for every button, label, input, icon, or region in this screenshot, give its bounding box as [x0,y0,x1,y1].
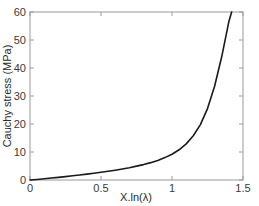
y-tick-label: 0 [20,174,26,186]
cauchy-stress-plot: 00.511.5 0102030405060 X.ln(λ) Cauchy st… [0,0,259,206]
x-tick-label: 1.5 [235,182,250,194]
y-axis-title: Cauchy stress (MPa) [1,45,13,148]
y-tick-label: 60 [14,6,26,18]
y-tick-label: 30 [14,90,26,102]
y-tick-label: 40 [14,62,26,74]
y-tick-label: 10 [14,146,26,158]
y-tick-label: 50 [14,34,26,46]
chart-figure: 00.511.5 0102030405060 X.ln(λ) Cauchy st… [0,0,259,206]
x-tick-label: 1 [169,182,175,194]
x-tick-label: 0.5 [93,182,108,194]
x-axis-title: X.ln(λ) [120,191,152,203]
x-tick-label: 0 [27,182,33,194]
y-tick-label: 20 [14,118,26,130]
